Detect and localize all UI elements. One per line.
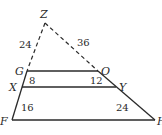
length-label-oy: 12 [90, 75, 103, 86]
geometry-diagram: Z G O X Y F H 24 36 8 12 16 24 [0, 0, 162, 135]
length-label-zg: 24 [19, 39, 32, 50]
vertex-label-g: G [15, 65, 24, 78]
vertex-label-x: X [8, 81, 18, 94]
vertex-label-bottom-right: H [156, 115, 162, 128]
segment-zo [45, 23, 98, 71]
vertex-label-f: F [0, 115, 8, 128]
length-label-yh: 24 [116, 102, 129, 113]
vertex-label-z: Z [39, 8, 48, 21]
length-label-xf: 16 [21, 102, 34, 113]
vertex-label-y: Y [119, 81, 128, 94]
length-label-gx: 8 [29, 75, 35, 86]
length-label-zo: 36 [77, 37, 90, 48]
